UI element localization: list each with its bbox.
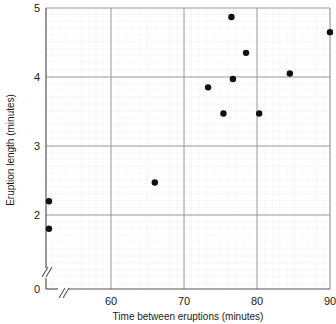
x-axis-title: Time between eruptions (minutes) <box>113 311 264 322</box>
data-point <box>152 179 158 185</box>
data-point <box>205 84 211 90</box>
data-point <box>46 226 52 232</box>
x-tick-label: 90 <box>324 295 336 307</box>
chart-canvas: 60708090 02345 Time between eruptions (m… <box>0 0 336 324</box>
x-tick-label: 60 <box>105 295 117 307</box>
y-tick-label: 2 <box>34 209 40 221</box>
x-tick-labels: 60708090 <box>105 295 336 307</box>
data-point <box>327 29 333 35</box>
y-tick-label: 0 <box>34 283 40 295</box>
minor-gridlines <box>46 8 330 289</box>
data-point <box>243 50 249 56</box>
y-tick-label: 3 <box>34 140 40 152</box>
x-tick-label: 80 <box>251 295 263 307</box>
y-tick-label: 5 <box>34 2 40 14</box>
y-tick-label: 4 <box>34 71 40 83</box>
y-axis-title: Eruption length (minutes) <box>5 94 16 206</box>
data-point <box>230 76 236 82</box>
data-point <box>287 70 293 76</box>
data-point <box>228 14 234 20</box>
data-point <box>256 110 262 116</box>
y-tick-labels: 02345 <box>34 2 40 295</box>
x-tick-label: 70 <box>178 295 190 307</box>
data-point <box>220 110 226 116</box>
scatter-chart: 60708090 02345 Time between eruptions (m… <box>0 0 336 324</box>
data-point <box>46 198 52 204</box>
